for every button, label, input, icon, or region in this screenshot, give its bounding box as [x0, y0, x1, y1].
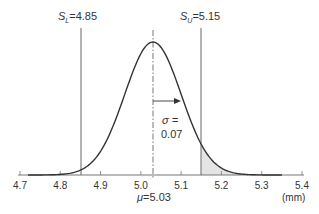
x-tick-label: 5.2 — [214, 180, 228, 191]
normal-curve — [28, 42, 282, 175]
x-tick-label: 4.7 — [13, 180, 27, 191]
sigma-value: 0.07 — [161, 128, 182, 140]
sigma-label: σ = — [162, 114, 179, 126]
x-tick-label: 5.0 — [134, 180, 148, 191]
upper-tail-shade — [201, 144, 282, 175]
normal-distribution-chart: 4.74.84.95.05.15.25.35.4 SL=4.85 SU=5.15… — [0, 0, 319, 214]
x-tick-label: 5.1 — [174, 180, 188, 191]
unit-label: (mm) — [282, 192, 305, 203]
sigma-arrow-head — [174, 98, 181, 104]
upper-spec-label: SU=5.15 — [180, 10, 220, 24]
mean-label: μ=5.03 — [136, 191, 171, 203]
x-tick-label: 5.3 — [255, 180, 269, 191]
x-tick-label: 5.4 — [295, 180, 309, 191]
x-tick-label: 4.8 — [53, 180, 67, 191]
x-tick-label: 4.9 — [94, 180, 108, 191]
lower-spec-label: SL=4.85 — [58, 10, 97, 24]
